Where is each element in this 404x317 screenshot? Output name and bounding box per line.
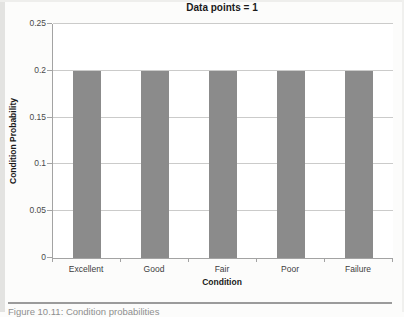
- y-tick-mark: [47, 117, 52, 118]
- y-tick-mark: [47, 257, 52, 258]
- y-tick-label: 0.25: [0, 18, 46, 28]
- page-edge-left: [0, 0, 5, 312]
- chart-title: Data points = 1: [52, 2, 392, 13]
- y-tick-label: 0.2: [0, 65, 46, 75]
- x-tick-mark: [324, 259, 325, 262]
- bar-excellent: [73, 71, 101, 258]
- x-tick-mark: [52, 259, 53, 262]
- x-tick-mark: [120, 259, 121, 262]
- figure-caption-cutoff: Figure 10.11: Condition probabilities: [8, 306, 398, 317]
- bar-failure: [345, 71, 373, 258]
- x-tick-label: Good: [120, 264, 188, 274]
- x-tick-mark: [188, 259, 189, 262]
- bar-fair: [209, 71, 237, 258]
- x-tick-label: Failure: [324, 264, 392, 274]
- y-tick-mark: [47, 70, 52, 71]
- y-tick-mark: [47, 163, 52, 164]
- plot-area: [52, 24, 393, 259]
- x-tick-mark: [256, 259, 257, 262]
- y-axis-title: Condition Probability: [8, 81, 18, 201]
- caption-separator: [8, 302, 392, 304]
- y-tick-mark: [47, 23, 52, 24]
- y-tick-label: 0: [0, 252, 46, 262]
- y-tick-label: 0.05: [0, 205, 46, 215]
- x-tick-label: Excellent: [52, 264, 120, 274]
- gridline: [53, 23, 393, 24]
- y-tick-mark: [47, 210, 52, 211]
- bar-good: [141, 71, 169, 258]
- bar-poor: [277, 71, 305, 258]
- x-tick-mark: [392, 259, 393, 262]
- y-tick-label: 0.1: [0, 158, 46, 168]
- x-axis-title: Condition: [52, 277, 392, 287]
- x-tick-label: Fair: [188, 264, 256, 274]
- x-tick-label: Poor: [256, 264, 324, 274]
- y-tick-label: 0.15: [0, 112, 46, 122]
